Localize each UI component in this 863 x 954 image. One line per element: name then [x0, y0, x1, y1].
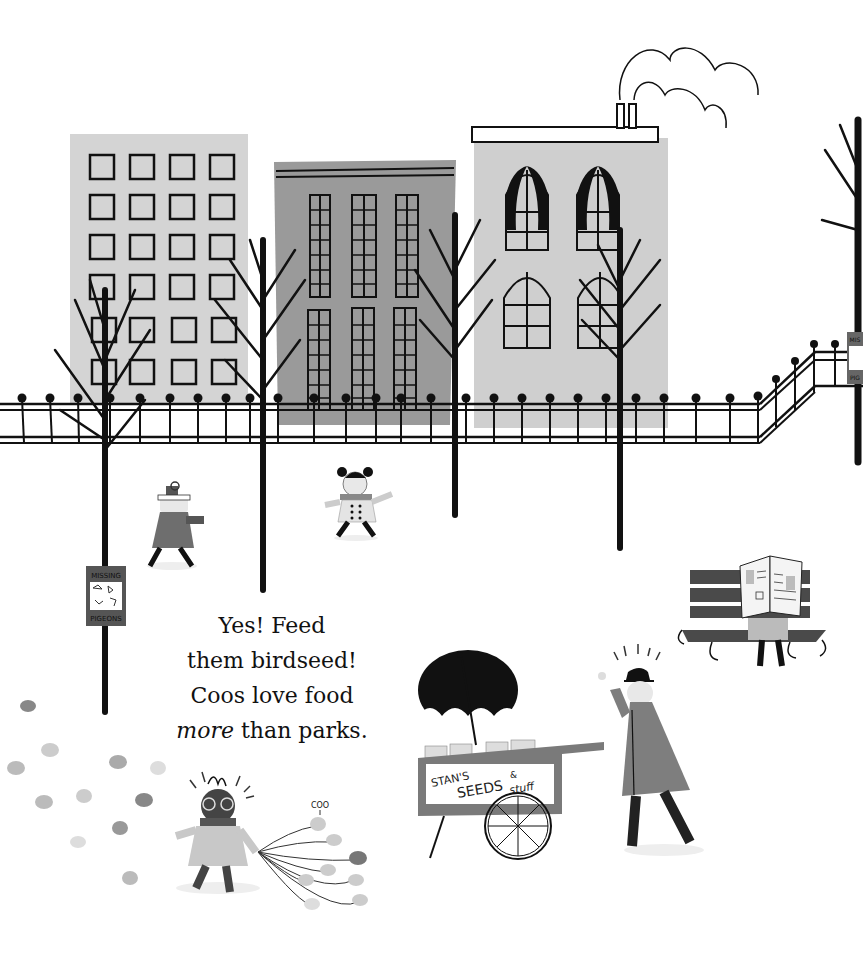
svg-text:MISSING: MISSING	[91, 572, 121, 580]
narration-line-1: Yes! Feed	[172, 608, 372, 643]
narration-line-4-rest: than parks.	[234, 718, 368, 743]
story-narration: Yes! Feed them birdseed! Coos love food …	[172, 608, 372, 748]
park-scene: MISSING PIGEONS MIS PIG	[0, 0, 863, 954]
missing-pigeons-sign-right: MIS PIG	[847, 332, 863, 384]
svg-text:COO: COO	[311, 801, 329, 810]
pigeon-leashes	[258, 826, 358, 906]
svg-text:&: &	[510, 770, 517, 780]
svg-text:PIG: PIG	[850, 374, 860, 381]
svg-text:PIGEONS: PIGEONS	[90, 615, 122, 623]
seed-cart: STAN'S SEEDS & stuff	[418, 650, 604, 859]
narration-line-4: more than parks.	[172, 713, 372, 748]
missing-pigeons-sign: MISSING PIGEONS	[86, 566, 126, 626]
girl-walking	[325, 467, 392, 541]
narration-line-3: Coos love food	[172, 678, 372, 713]
narration-emphasis: more	[176, 718, 234, 743]
svg-text:MIS: MIS	[850, 336, 861, 343]
cart-wheel	[485, 793, 551, 859]
narration-line-2: them birdseed!	[172, 643, 372, 678]
bench-newspaper-reader	[678, 556, 826, 666]
building-left	[70, 134, 248, 404]
stan-waving-man	[598, 644, 704, 856]
building-right	[472, 48, 758, 428]
boy-walking	[147, 482, 204, 570]
